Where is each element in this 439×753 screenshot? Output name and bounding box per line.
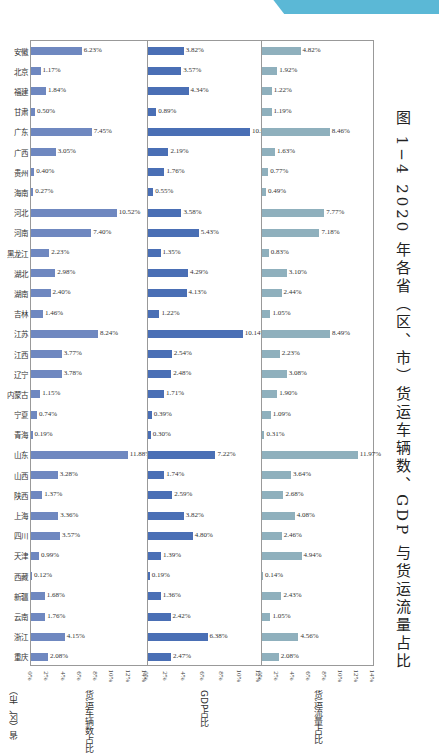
axis-title-vehicles: 货运车辆数占比 <box>83 690 96 753</box>
value-label: 2.68% <box>285 490 303 498</box>
bar-row: 2.43% <box>262 592 376 600</box>
bar <box>31 350 62 358</box>
bar <box>31 289 51 297</box>
bar <box>148 269 188 277</box>
bar-row: 2.47% <box>148 653 262 661</box>
value-label: 7.22% <box>217 450 235 458</box>
value-label: 1.17% <box>43 66 61 74</box>
panel-vehicles: 6.23%1.17%1.84%0.50%7.45%3.05%0.40%0.27%… <box>31 41 147 665</box>
bar-row: 3.57% <box>31 532 147 540</box>
tick-label: 2% <box>272 671 280 680</box>
value-label: 1.71% <box>166 389 184 397</box>
bar-row: 2.59% <box>148 491 262 499</box>
value-label: 1.84% <box>48 86 66 94</box>
bar <box>148 532 193 540</box>
value-label: 1.92% <box>279 66 297 74</box>
bar <box>31 209 117 217</box>
bar-row: 8.24% <box>31 330 147 338</box>
bar-row: 7.22% <box>148 451 262 459</box>
value-label: 1.76% <box>166 167 184 175</box>
bar <box>262 310 270 318</box>
bar-row: 2.23% <box>31 249 147 257</box>
province-label: 陕西 <box>0 490 28 501</box>
value-label: 6.23% <box>84 46 102 54</box>
value-label: 1.05% <box>272 612 290 620</box>
bar-row: 3.78% <box>31 370 147 378</box>
value-label: 2.47% <box>173 652 191 660</box>
bar-row: 4.82% <box>262 47 376 55</box>
bar-row: 1.71% <box>148 390 262 398</box>
value-label: 1.90% <box>279 389 297 397</box>
bar <box>31 330 98 338</box>
value-label: 4.34% <box>191 86 209 94</box>
bar-row: 1.22% <box>148 310 262 318</box>
bar-row: 2.19% <box>148 148 262 156</box>
bar-row: 4.94% <box>262 552 376 560</box>
bar-row: 2.54% <box>148 350 262 358</box>
value-label: 2.08% <box>50 652 68 660</box>
bar <box>262 633 298 641</box>
province-label: 湖北 <box>0 268 28 279</box>
value-label: 1.22% <box>274 86 292 94</box>
province-label: 福建 <box>0 86 28 97</box>
bar-row: 1.39% <box>148 552 262 560</box>
bar-row: 7.77% <box>262 209 376 217</box>
bar <box>262 613 270 621</box>
bar <box>148 512 184 520</box>
bar <box>262 289 282 297</box>
value-label: 4.29% <box>190 268 208 276</box>
bar-row: 1.37% <box>31 491 147 499</box>
value-label: 1.36% <box>163 591 181 599</box>
value-label: 2.23% <box>51 248 69 256</box>
bar <box>31 148 56 156</box>
value-label: 3.64% <box>293 470 311 478</box>
bar-row: 10.52% <box>31 209 147 217</box>
bar-row: 4.08% <box>262 512 376 520</box>
bar <box>148 188 153 196</box>
value-label: 2.42% <box>173 612 191 620</box>
value-label: 3.05% <box>58 147 76 155</box>
bar <box>148 108 156 116</box>
bar-row: 2.40% <box>31 289 147 297</box>
bar <box>31 67 41 75</box>
bar-row: 1.09% <box>262 411 376 419</box>
province-label: 吉林 <box>0 308 28 319</box>
tick-label: 4% <box>59 671 67 680</box>
bar <box>31 431 33 439</box>
value-label: 1.35% <box>163 248 181 256</box>
bar <box>262 471 291 479</box>
tick-label: 4% <box>288 671 296 680</box>
bar-row: 1.15% <box>31 390 147 398</box>
bar <box>262 592 281 600</box>
bar-row: 0.83% <box>262 249 376 257</box>
bar-row: 0.12% <box>31 572 147 580</box>
bar-row: 1.90% <box>262 390 376 398</box>
value-label: 2.23% <box>282 349 300 357</box>
value-label: 6.38% <box>210 632 228 640</box>
value-label: 2.43% <box>283 591 301 599</box>
bar <box>148 653 171 661</box>
value-label: 0.77% <box>270 167 288 175</box>
bar-row: 2.42% <box>148 613 262 621</box>
value-label: 3.36% <box>60 511 78 519</box>
bar <box>262 269 287 277</box>
bar-row: 0.99% <box>31 552 147 560</box>
value-label: 2.40% <box>53 288 71 296</box>
tick-label: 4% <box>179 671 187 680</box>
province-label: 青海 <box>0 429 28 440</box>
tick-label: 12% <box>352 670 360 683</box>
bar-row: 2.23% <box>262 350 376 358</box>
bar-row: 1.05% <box>262 310 376 318</box>
bar <box>31 390 40 398</box>
value-label: 4.15% <box>67 632 85 640</box>
bar <box>262 87 272 95</box>
bar-row: 4.13% <box>148 289 262 297</box>
bar <box>31 491 42 499</box>
province-label: 江苏 <box>0 328 28 339</box>
bar <box>148 613 171 621</box>
bar <box>31 188 33 196</box>
value-label: 1.46% <box>45 309 63 317</box>
value-label: 10.52% <box>119 208 141 216</box>
bar <box>31 451 128 459</box>
bar-row: 1.35% <box>148 249 262 257</box>
